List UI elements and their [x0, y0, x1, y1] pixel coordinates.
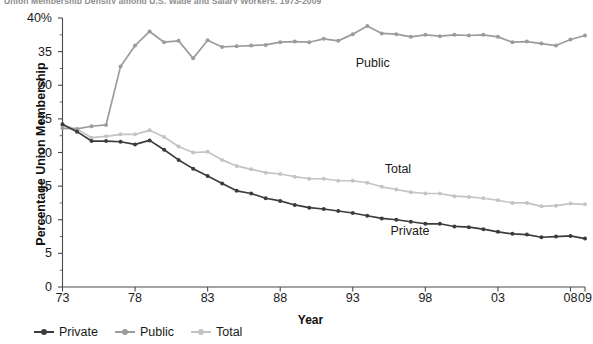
data-point-private	[264, 196, 268, 200]
data-point-public	[293, 40, 297, 44]
x-tick-label: 93	[346, 291, 360, 305]
data-point-public	[510, 40, 514, 44]
series-annotation-private: Private	[391, 224, 430, 238]
data-point-public	[467, 33, 471, 37]
data-point-total	[423, 192, 427, 196]
data-point-public	[554, 44, 558, 48]
data-point-public	[177, 39, 181, 43]
data-point-total	[162, 135, 166, 139]
data-point-private	[133, 142, 137, 146]
data-point-public	[104, 123, 108, 127]
x-tick-label: 83	[201, 291, 215, 305]
legend-label-total: Total	[216, 325, 242, 339]
data-point-private	[554, 235, 558, 239]
x-axis-title-text: Year	[298, 313, 323, 327]
data-point-total	[452, 194, 456, 198]
data-point-public	[496, 35, 500, 39]
data-point-private	[278, 199, 282, 203]
data-point-public	[481, 33, 485, 37]
data-point-public	[162, 40, 166, 44]
data-point-total	[409, 190, 413, 194]
y-tick-label: 5	[12, 246, 52, 260]
data-point-total	[206, 150, 210, 154]
legend-item-total[interactable]: Total	[191, 325, 242, 339]
data-point-public	[249, 44, 253, 48]
data-point-private	[365, 214, 369, 218]
data-point-private	[307, 206, 311, 210]
series-annotation-public: Public	[356, 56, 390, 70]
data-point-total	[510, 201, 514, 205]
data-point-public	[278, 40, 282, 44]
data-point-total	[365, 181, 369, 185]
data-point-private	[104, 139, 108, 143]
data-point-private	[293, 203, 297, 207]
data-point-total	[467, 195, 471, 199]
chart-page: Union Membership Density among U.S. Wage…	[0, 0, 593, 344]
data-point-public	[380, 31, 384, 35]
data-point-total	[380, 185, 384, 189]
data-point-public	[206, 38, 210, 42]
data-point-total	[133, 132, 137, 136]
x-tick-label: 98	[418, 291, 432, 305]
y-tick-label: 15	[12, 179, 52, 193]
data-point-private	[539, 235, 543, 239]
data-point-total	[119, 132, 123, 136]
data-point-total	[307, 177, 311, 181]
y-tick-label: 10	[12, 213, 52, 227]
data-point-total	[104, 134, 108, 138]
data-point-private	[452, 224, 456, 228]
data-point-total	[220, 158, 224, 162]
y-tick-label: 35	[12, 45, 52, 59]
data-point-private	[206, 174, 210, 178]
data-point-total	[235, 164, 239, 168]
data-point-public	[307, 40, 311, 44]
data-point-public	[452, 33, 456, 37]
data-point-private	[394, 218, 398, 222]
data-point-total	[583, 202, 587, 206]
series-line-public	[63, 26, 586, 129]
data-point-private	[177, 158, 181, 162]
legend-item-public[interactable]: Public	[115, 325, 174, 339]
chart-legend: Private Public Total	[34, 325, 242, 339]
data-point-total	[496, 198, 500, 202]
x-tick-label: 78	[128, 291, 142, 305]
data-point-public	[264, 43, 268, 47]
y-tick-label: 20	[12, 146, 52, 160]
data-point-public	[119, 64, 123, 68]
data-point-total	[394, 187, 398, 191]
x-tick-label: 08	[564, 291, 578, 305]
series-line-total	[63, 126, 586, 207]
data-point-public	[365, 24, 369, 28]
series-annotation-total: Total	[385, 162, 411, 176]
data-point-total	[249, 167, 253, 171]
data-point-private	[467, 225, 471, 229]
data-point-total	[148, 128, 152, 132]
data-point-public	[90, 124, 94, 128]
data-point-private	[162, 148, 166, 152]
data-point-public	[235, 44, 239, 48]
legend-item-private[interactable]: Private	[34, 325, 98, 339]
data-point-public	[351, 32, 355, 36]
data-point-total	[322, 177, 326, 181]
data-point-public	[394, 32, 398, 36]
data-point-total	[191, 151, 195, 155]
data-point-private	[148, 138, 152, 142]
data-point-private	[336, 209, 340, 213]
data-point-private	[583, 237, 587, 241]
data-point-private	[119, 140, 123, 144]
x-tick-label: 09	[578, 291, 592, 305]
data-point-private	[220, 181, 224, 185]
data-point-private	[568, 234, 572, 238]
data-point-total	[293, 175, 297, 179]
data-point-public	[525, 40, 529, 44]
legend-swatch-public-icon	[115, 327, 135, 337]
data-point-private	[249, 192, 253, 196]
data-point-public	[583, 33, 587, 37]
x-tick-label: 88	[273, 291, 287, 305]
legend-label-public: Public	[140, 325, 174, 339]
data-point-total	[336, 179, 340, 183]
x-tick-label: 73	[56, 291, 70, 305]
data-point-public	[423, 33, 427, 37]
data-point-private	[380, 216, 384, 220]
data-point-total	[554, 204, 558, 208]
